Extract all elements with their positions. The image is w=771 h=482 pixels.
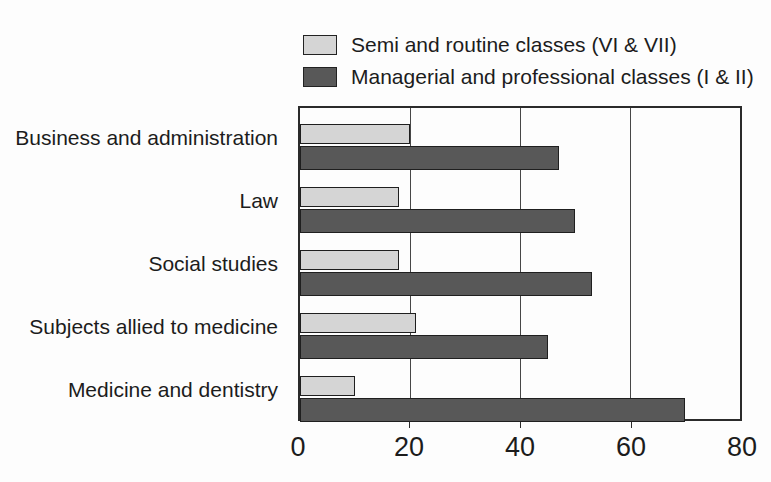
plot-area bbox=[298, 106, 742, 421]
bar-row-1 bbox=[300, 171, 740, 234]
bar-managerial-4 bbox=[300, 398, 685, 422]
category-label-0: Business and administration bbox=[0, 106, 278, 169]
axis-tick-label-0: 0 bbox=[290, 432, 305, 462]
category-label-4: Medicine and dentistry bbox=[0, 358, 278, 421]
bar-row-4 bbox=[300, 360, 740, 423]
bar-row-3 bbox=[300, 297, 740, 360]
axis-tick-label-60: 60 bbox=[616, 432, 646, 462]
category-label-3: Subjects allied to medicine bbox=[0, 295, 278, 358]
axis-tick-label-20: 20 bbox=[394, 432, 424, 462]
bar-semi-routine-3 bbox=[300, 313, 416, 333]
bar-managerial-3 bbox=[300, 335, 548, 359]
y-axis-category-labels: Business and administrationLawSocial stu… bbox=[0, 106, 288, 421]
legend-item-managerial: Managerial and professional classes (I &… bbox=[303, 65, 754, 89]
axis-tick-label-40: 40 bbox=[505, 432, 535, 462]
category-label-2: Social studies bbox=[0, 232, 278, 295]
bar-managerial-1 bbox=[300, 209, 575, 233]
legend-swatch-semi-routine bbox=[303, 35, 337, 55]
bar-managerial-2 bbox=[300, 272, 592, 296]
bar-semi-routine-1 bbox=[300, 187, 399, 207]
bar-semi-routine-2 bbox=[300, 250, 399, 270]
bar-row-2 bbox=[300, 234, 740, 297]
bar-semi-routine-4 bbox=[300, 376, 355, 396]
bar-chart-figure: Semi and routine classes (VI & VII) Mana… bbox=[0, 0, 771, 482]
legend-label-semi-routine: Semi and routine classes (VI & VII) bbox=[351, 33, 677, 57]
bar-managerial-0 bbox=[300, 146, 559, 170]
bar-semi-routine-0 bbox=[300, 124, 410, 144]
axis-tick-label-80: 80 bbox=[727, 432, 757, 462]
legend-swatch-managerial bbox=[303, 67, 337, 87]
legend-label-managerial: Managerial and professional classes (I &… bbox=[351, 65, 754, 89]
bar-row-0 bbox=[300, 108, 740, 171]
category-label-1: Law bbox=[0, 169, 278, 232]
x-axis-tick-labels: 020406080 bbox=[298, 432, 742, 464]
legend-item-semi-routine: Semi and routine classes (VI & VII) bbox=[303, 33, 677, 57]
